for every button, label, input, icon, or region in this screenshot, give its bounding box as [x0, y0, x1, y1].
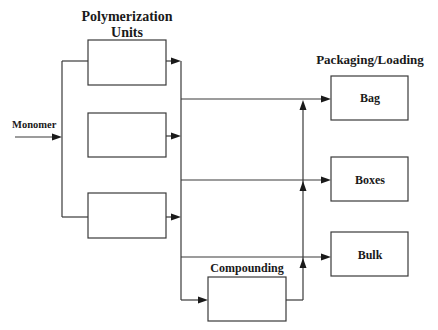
compounding-box: [208, 277, 286, 321]
polymerization-title-line1: Polymerization: [82, 9, 173, 24]
compounding-label: Compounding: [210, 261, 283, 275]
arrow-head-icon: [171, 214, 181, 221]
polymerization-unit-1: [88, 40, 166, 85]
arrow-head-icon: [171, 58, 181, 65]
boxes-label: Boxes: [355, 173, 385, 187]
arrow-head-icon: [300, 100, 307, 110]
bulk-label: Bulk: [358, 248, 383, 262]
arrow-head-icon: [171, 133, 181, 140]
arrow-head-icon: [300, 258, 307, 268]
arrow-head-icon: [321, 177, 331, 184]
arrow-head-icon: [300, 181, 307, 191]
arrow-head-icon: [52, 134, 62, 141]
arrow-head-icon: [321, 96, 331, 103]
arrow-head-icon: [321, 254, 331, 261]
monomer-label: Monomer: [12, 119, 57, 130]
bag-label: Bag: [360, 91, 380, 105]
polymerization-unit-2: [88, 113, 166, 157]
polymerization-title-line2: Units: [111, 25, 143, 40]
polymerization-unit-3: [88, 193, 166, 238]
arrow-head-icon: [198, 297, 208, 304]
packaging-title: Packaging/Loading: [316, 52, 424, 67]
process-flow-diagram: Polymerization Units Packaging/Loading M…: [0, 0, 438, 330]
